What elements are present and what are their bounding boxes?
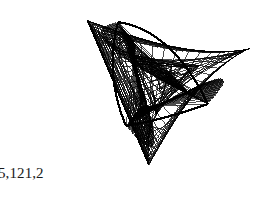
figure-page: 5,121,2 <box>0 0 274 213</box>
envelope-chord <box>155 98 164 99</box>
envelope-chord <box>149 103 182 164</box>
figure-caption: 5,121,2 <box>0 163 70 183</box>
